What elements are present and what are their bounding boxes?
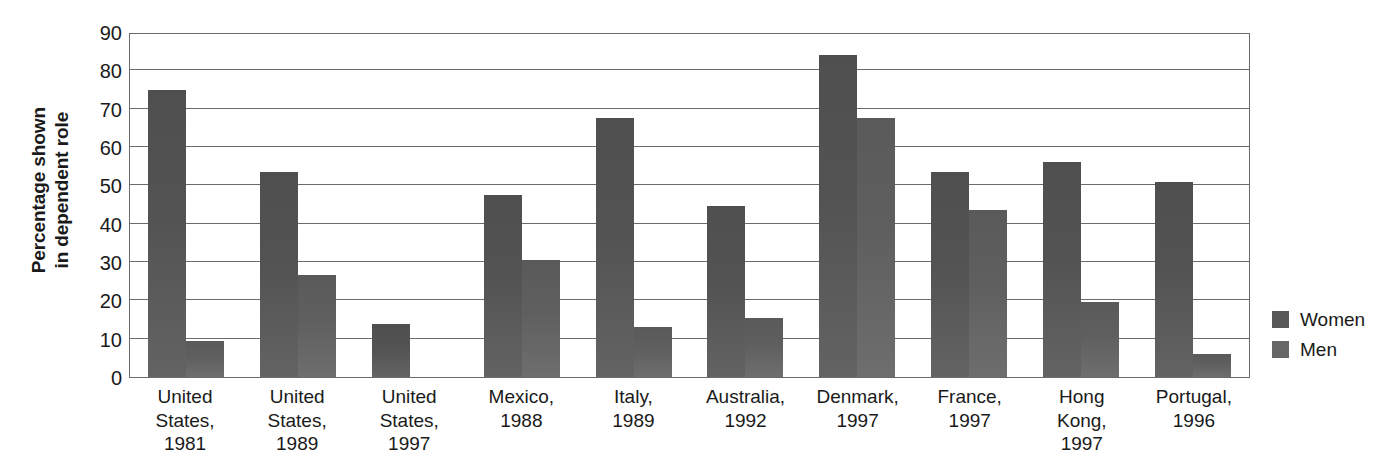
- legend: WomenMen: [1272, 304, 1392, 364]
- legend-item-label: Women: [1300, 310, 1365, 329]
- bar-group: [578, 34, 690, 377]
- legend-item[interactable]: Men: [1272, 334, 1392, 364]
- x-axis-category-label: Australia,1992: [689, 381, 801, 469]
- bar-women[interactable]: [931, 172, 969, 377]
- y-axis-tick-label: 20: [100, 291, 122, 311]
- x-axis-label-line: 1989: [241, 432, 353, 456]
- x-axis-label-line: 1988: [465, 409, 577, 433]
- x-axis-label-line: 1989: [577, 409, 689, 433]
- bar-group: [690, 34, 802, 377]
- bar-group: [242, 34, 354, 377]
- x-axis-category-label: HongKong,1997: [1026, 381, 1138, 469]
- y-axis-tick-label: 10: [100, 330, 122, 350]
- y-axis-tick-label: 70: [100, 100, 122, 120]
- x-axis-label-line: Denmark,: [802, 385, 914, 409]
- bar-men[interactable]: [969, 210, 1007, 377]
- x-axis-label-line: 1992: [689, 409, 801, 433]
- bar-men[interactable]: [298, 275, 336, 377]
- bar-group: [1025, 34, 1137, 377]
- x-axis-label-line: States,: [353, 409, 465, 433]
- x-axis-category-label: UnitedStates,1989: [241, 381, 353, 469]
- men-swatch: [1272, 341, 1289, 358]
- y-axis-tick-label: 40: [100, 215, 122, 235]
- women-swatch: [1272, 311, 1289, 328]
- y-axis-tick-label: 90: [100, 23, 122, 43]
- x-axis-label-line: France,: [914, 385, 1026, 409]
- bar-men[interactable]: [1193, 354, 1231, 377]
- x-axis-label-line: States,: [241, 409, 353, 433]
- x-axis-label-line: Portugal,: [1138, 385, 1250, 409]
- y-axis-title: Percentage shown in dependent role: [18, 0, 82, 380]
- x-axis-label-line: Kong,: [1026, 409, 1138, 433]
- bar-women[interactable]: [596, 118, 634, 377]
- bar-women[interactable]: [260, 172, 298, 377]
- bar-women[interactable]: [1155, 182, 1193, 378]
- x-axis-label-line: 1997: [1026, 432, 1138, 456]
- y-axis-tick-label: 60: [100, 138, 122, 158]
- bar-women[interactable]: [372, 324, 410, 377]
- y-axis-tick-label: 0: [111, 368, 122, 388]
- bar-women[interactable]: [484, 195, 522, 377]
- x-axis-category-label: Italy,1989: [577, 381, 689, 469]
- y-axis-title-line-1: Percentage shown: [28, 107, 49, 273]
- x-axis-category-label: Portugal,1996: [1138, 381, 1250, 469]
- y-axis-tick-labels: 0102030405060708090: [82, 0, 122, 400]
- bar-men[interactable]: [1081, 302, 1119, 377]
- bar-chart-figure: Percentage shown in dependent role 01020…: [0, 0, 1398, 473]
- y-axis-tick-label: 80: [100, 61, 122, 81]
- bar-groups: [130, 34, 1249, 377]
- bar-women[interactable]: [148, 90, 186, 378]
- bar-group: [801, 34, 913, 377]
- x-axis-label-line: Australia,: [689, 385, 801, 409]
- x-axis-label-line: 1997: [914, 409, 1026, 433]
- bar-group: [130, 34, 242, 377]
- legend-item[interactable]: Women: [1272, 304, 1392, 334]
- x-axis-category-labels: UnitedStates,1981UnitedStates,1989United…: [129, 381, 1250, 469]
- x-axis-category-label: UnitedStates,1997: [353, 381, 465, 469]
- x-axis-label-line: Italy,: [577, 385, 689, 409]
- x-axis-label-line: United: [129, 385, 241, 409]
- x-axis-category-label: France,1997: [914, 381, 1026, 469]
- bar-men[interactable]: [522, 260, 560, 377]
- x-axis-label-line: Hong: [1026, 385, 1138, 409]
- y-axis-title-line-2: in dependent role: [50, 107, 73, 273]
- bar-women[interactable]: [1043, 162, 1081, 377]
- x-axis-label-line: 1981: [129, 432, 241, 456]
- bar-group: [913, 34, 1025, 377]
- x-axis-label-line: United: [353, 385, 465, 409]
- x-axis-label-line: United: [241, 385, 353, 409]
- x-axis-label-line: 1996: [1138, 409, 1250, 433]
- x-axis-label-line: 1997: [353, 432, 465, 456]
- bar-group: [1137, 34, 1249, 377]
- bar-men[interactable]: [857, 118, 895, 377]
- x-axis-label-line: Mexico,: [465, 385, 577, 409]
- x-axis-category-label: Denmark,1997: [802, 381, 914, 469]
- x-axis-category-label: UnitedStates,1981: [129, 381, 241, 469]
- x-axis-category-label: Mexico,1988: [465, 381, 577, 469]
- bar-women[interactable]: [707, 206, 745, 377]
- y-axis-tick-label: 30: [100, 253, 122, 273]
- y-axis-tick-label: 50: [100, 176, 122, 196]
- plot-area: [129, 33, 1250, 378]
- legend-item-label: Men: [1300, 340, 1337, 359]
- bar-group: [354, 34, 466, 377]
- bar-men[interactable]: [186, 341, 224, 377]
- bar-women[interactable]: [819, 55, 857, 377]
- x-axis-label-line: States,: [129, 409, 241, 433]
- bar-group: [466, 34, 578, 377]
- x-axis-label-line: 1997: [802, 409, 914, 433]
- bar-men[interactable]: [634, 327, 672, 377]
- bar-men[interactable]: [745, 318, 783, 377]
